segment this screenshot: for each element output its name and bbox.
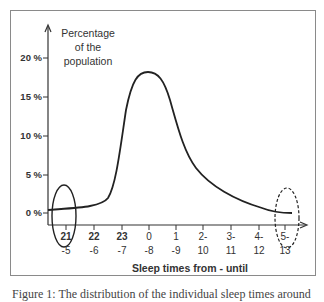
y-tick-label: 0 %: [10, 207, 42, 218]
x-tick-until: 12: [245, 244, 273, 258]
x-tick-from: 0: [135, 230, 163, 244]
y-tick-label: 5 %: [10, 169, 42, 180]
x-tick-label: 3-11: [217, 230, 245, 258]
x-tick-label: 1-9: [162, 230, 190, 258]
x-tick-until: -6: [80, 244, 108, 258]
x-tick-until: -7: [108, 244, 136, 258]
x-tick-from: 23: [108, 230, 136, 244]
x-tick-label: 5-13: [271, 230, 299, 258]
x-tick-from: 1: [162, 230, 190, 244]
y-axis-title-line: population: [58, 54, 118, 68]
x-tick-label: 0-8: [135, 230, 163, 258]
y-tick-label: 15 %: [10, 91, 42, 102]
x-tick-label: 2-10: [189, 230, 217, 258]
y-axis-title-line: of the: [58, 40, 118, 54]
y-tick-label: 10 %: [10, 130, 42, 141]
x-tick-until: -8: [135, 244, 163, 258]
x-tick-until: -9: [162, 244, 190, 258]
x-tick-from: 5-: [271, 230, 299, 244]
y-axis-title-line: Percentage: [58, 26, 118, 40]
y-axis-title: Percentage of the population: [58, 26, 118, 68]
x-tick-from: 3-: [217, 230, 245, 244]
x-axis-title: Sleep times from - until: [100, 262, 280, 274]
x-tick-until: 13: [271, 244, 299, 258]
x-tick-from: 4-: [245, 230, 273, 244]
y-tick-label: 20 %: [10, 52, 42, 63]
x-tick-label: 22-6: [80, 230, 108, 258]
x-tick-label: 4-12: [245, 230, 273, 258]
x-tick-until: -5: [52, 244, 80, 258]
x-tick-label: 23-7: [108, 230, 136, 258]
distribution-curve: [48, 72, 292, 213]
figure-caption: Figure 1: The distribution of the indivi…: [12, 287, 322, 302]
x-tick-from: 22: [80, 230, 108, 244]
x-tick-until: 11: [217, 244, 245, 258]
x-tick-from: 21: [52, 230, 80, 244]
x-tick-until: 10: [189, 244, 217, 258]
x-tick-label: 21-5: [52, 230, 80, 258]
x-tick-from: 2-: [189, 230, 217, 244]
